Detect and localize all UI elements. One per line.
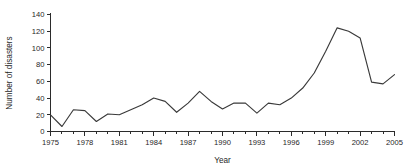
x-axis-tick-label: 2002 (352, 138, 369, 147)
x-axis-tick-label: 1984 (145, 138, 162, 147)
y-axis-title: Number of disasters (5, 36, 14, 109)
y-axis-tick-label: 140 (32, 10, 45, 19)
y-axis-tick-label: 40 (36, 94, 44, 103)
x-axis-tick-label: 1975 (42, 138, 59, 147)
x-axis-tick-label: 1993 (248, 138, 265, 147)
x-axis-tick-label: 1999 (317, 138, 334, 147)
y-axis-tick-label: 80 (36, 60, 44, 69)
y-axis-tick-label: 120 (32, 27, 45, 36)
y-axis-tick-label: 60 (36, 77, 44, 86)
x-axis-title: Year (214, 156, 231, 165)
y-axis-tick-label: 100 (32, 44, 45, 53)
y-axis-tick-label: 20 (36, 111, 44, 120)
chart-figure: 0204060801001201401975197819811984198719… (0, 0, 411, 168)
x-axis-tick-label: 2005 (386, 138, 403, 147)
data-series-line (51, 28, 395, 127)
y-axis-tick-label: 0 (40, 127, 44, 136)
line-chart: 0204060801001201401975197819811984198719… (0, 0, 411, 168)
x-axis-tick-label: 1981 (111, 138, 128, 147)
x-axis-tick-label: 1990 (214, 138, 231, 147)
x-axis-tick-label: 1996 (283, 138, 300, 147)
x-axis-tick-label: 1987 (180, 138, 197, 147)
x-axis-tick-label: 1978 (76, 138, 93, 147)
